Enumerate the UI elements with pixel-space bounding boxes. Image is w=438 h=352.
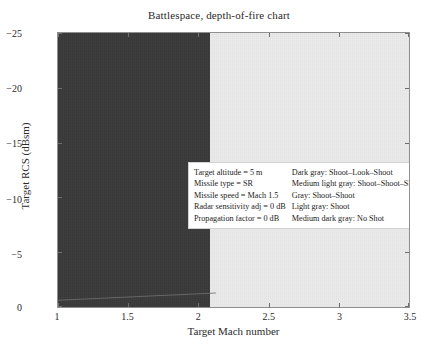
y-axis-title: Target RCS (dBsm) xyxy=(19,86,31,246)
y-tick-right-neg25 xyxy=(405,33,409,34)
y-tick-neg5 xyxy=(58,252,62,253)
legend-shade-item: Light gray: Shoot xyxy=(292,201,410,212)
x-tick-label: 3.5 xyxy=(404,311,417,322)
y-tick-neg25 xyxy=(58,33,62,34)
x-tick-label: 1.5 xyxy=(121,311,134,322)
legend-shade-item: Gray: Shoot–Shoot xyxy=(292,190,410,201)
legend-parameter-item: Radar sensitivity adj = 0 dB xyxy=(194,201,286,212)
y-tick-neg10 xyxy=(58,197,62,198)
y-tick-label: −5 xyxy=(0,248,22,259)
y-tick-right-neg15 xyxy=(405,143,409,144)
legend-parameter-item: Missile type = SR xyxy=(194,178,286,189)
legend-shade-key-column: Dark gray: Shoot–Look–Shoot Medium light… xyxy=(292,167,410,224)
y-tick-right-neg20 xyxy=(405,88,409,89)
y-tick-label: −25 xyxy=(0,28,22,39)
legend-shade-item: Medium dark gray: No Shot xyxy=(292,213,410,224)
plot-area: Target altitude = 5 m Missile type = SR … xyxy=(57,32,410,308)
legend-parameter-item: Target altitude = 5 m xyxy=(194,167,286,178)
legend-parameters-column: Target altitude = 5 m Missile type = SR … xyxy=(194,167,286,224)
legend-parameter-item: Missile speed = Mach 1.5 xyxy=(194,190,286,201)
legend-box: Target altitude = 5 m Missile type = SR … xyxy=(188,162,410,229)
x-tick-2 xyxy=(198,303,199,307)
legend-shade-item: Dark gray: Shoot–Look–Shoot xyxy=(292,167,410,178)
y-tick-label: 0 xyxy=(0,302,22,313)
x-tick-top-2-5 xyxy=(269,33,270,37)
y-tick-neg20 xyxy=(58,88,62,89)
y-tick-neg15 xyxy=(58,143,62,144)
x-axis-title: Target Mach number xyxy=(57,325,410,337)
legend-shade-item: Medium light gray: Shoot–Shoot–Shoot xyxy=(292,178,410,189)
x-tick-label: 2 xyxy=(196,311,201,322)
y-tick-right-neg5 xyxy=(405,252,409,253)
x-tick-2-5 xyxy=(269,303,270,307)
x-tick-label: 3 xyxy=(337,311,342,322)
legend-parameter-item: Propagation factor = 0 dB xyxy=(194,213,286,224)
x-tick-top-3 xyxy=(339,33,340,37)
x-tick-1-5 xyxy=(128,303,129,307)
x-tick-top-2 xyxy=(198,33,199,37)
x-tick-top-1-5 xyxy=(128,33,129,37)
y-tick-0 xyxy=(58,306,62,307)
x-tick-3 xyxy=(339,303,340,307)
chart-title: Battlespace, depth-of-fire chart xyxy=(0,9,438,21)
x-tick-label: 2.5 xyxy=(263,311,276,322)
y-tick-right-0 xyxy=(405,306,409,307)
x-tick-label: 1 xyxy=(55,311,60,322)
